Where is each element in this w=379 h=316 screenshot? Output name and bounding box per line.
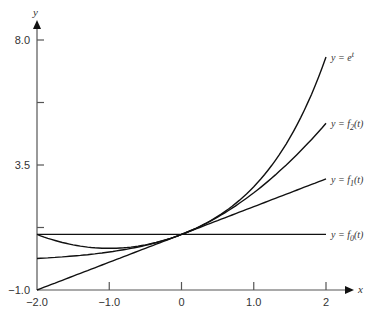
y-axis-label: y bbox=[32, 6, 38, 18]
plot-area bbox=[37, 57, 326, 290]
x-axis-arrow-icon bbox=[345, 286, 354, 294]
curve-f1-label: y = f1(t) bbox=[330, 174, 364, 188]
curve-f2 bbox=[37, 123, 326, 248]
curve-f0-label: y = f0(t) bbox=[330, 229, 364, 243]
x-tick-label: 1.0 bbox=[246, 296, 261, 308]
x-tick-label: 2 bbox=[323, 296, 329, 308]
x-tick-label: −1.0 bbox=[98, 296, 120, 308]
curve-exp bbox=[37, 57, 326, 259]
x-tick-label: −2.0 bbox=[26, 296, 48, 308]
x-axis: x −2.0−1.001.02 bbox=[26, 282, 363, 308]
curve-labels: y = ety = f2(t)y = f1(t)y = f0(t) bbox=[330, 50, 364, 243]
y-tick-label: 3.5 bbox=[15, 159, 30, 171]
chart: y −1.03.58.0 x −2.0−1.001.02 y = ety = f… bbox=[0, 0, 379, 316]
curve-exp-label: y = et bbox=[330, 50, 355, 63]
y-axis-arrow-icon bbox=[33, 20, 41, 29]
y-tick-label: −1.0 bbox=[8, 284, 30, 296]
x-axis-label: x bbox=[357, 283, 363, 295]
y-tick-label: 8.0 bbox=[15, 34, 30, 46]
curve-f2-label: y = f2(t) bbox=[330, 118, 364, 132]
y-axis: y −1.03.58.0 bbox=[8, 6, 44, 296]
x-tick-label: 0 bbox=[178, 296, 184, 308]
